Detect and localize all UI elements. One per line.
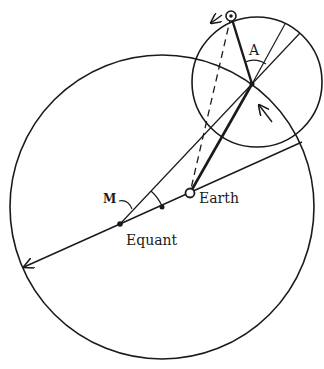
epicycle-center-dot bbox=[250, 82, 255, 87]
earth-to-epicycle-line bbox=[190, 84, 252, 193]
planet-marker-core bbox=[229, 14, 233, 18]
earth-marker bbox=[186, 189, 195, 198]
equant-diagram: A M Earth Equant bbox=[0, 0, 324, 369]
deferent-center-dot bbox=[160, 205, 165, 210]
angle-m-pointer bbox=[119, 201, 132, 209]
equant-dot bbox=[117, 221, 123, 227]
apsides-line-left bbox=[24, 224, 120, 267]
label-earth: Earth bbox=[199, 190, 239, 206]
label-angle-a: A bbox=[248, 42, 260, 58]
angle-m-arc bbox=[151, 191, 162, 206]
label-angle-m: M bbox=[103, 192, 116, 206]
label-equant: Equant bbox=[126, 232, 178, 248]
planet-motion-arrow bbox=[211, 15, 222, 23]
epicycle-motion-arrow bbox=[259, 105, 272, 122]
